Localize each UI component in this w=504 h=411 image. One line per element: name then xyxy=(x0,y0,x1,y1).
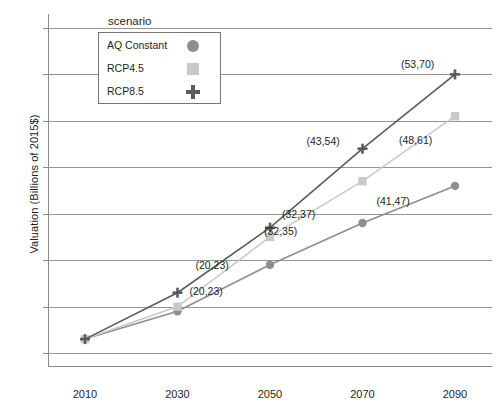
data-point-rcp4-5 xyxy=(451,112,459,120)
legend-item-label: RCP8.5 xyxy=(107,85,144,97)
point-annotation: (48,61) xyxy=(399,134,432,146)
x-tick-label: 2050 xyxy=(240,388,300,400)
legend-marker-square-icon xyxy=(185,61,201,77)
data-point-rcp8-5 xyxy=(173,288,183,298)
legend-box: scenario AQ ConstantRCP4.5RCP8.5 xyxy=(98,32,221,104)
legend-item-rcp8-5[interactable]: RCP8.5 xyxy=(99,80,222,104)
x-tick-label: 2090 xyxy=(425,388,485,400)
data-point-rcp4-5 xyxy=(173,302,181,310)
point-annotation: (20,23) xyxy=(196,259,229,271)
legend-item-aq-constant[interactable]: AQ Constant xyxy=(99,34,222,58)
data-point-aq-constant xyxy=(266,261,274,269)
legend-item-label: RCP4.5 xyxy=(107,62,144,74)
point-annotation: (32,37) xyxy=(282,208,315,220)
point-annotation: (41,47) xyxy=(377,195,410,207)
legend-title: scenario xyxy=(106,15,153,27)
y-axis-title: Valuation (Billions of 2015$) xyxy=(28,64,40,304)
data-point-aq-constant xyxy=(358,219,366,227)
x-tick-label: 2010 xyxy=(55,388,115,400)
x-tick-label: 2030 xyxy=(148,388,208,400)
legend-marker-plus-icon xyxy=(185,84,201,100)
legend-item-label: AQ Constant xyxy=(107,39,167,51)
legend-marker-circle-icon xyxy=(185,38,201,54)
point-annotation: (20,23) xyxy=(190,285,223,297)
data-point-aq-constant xyxy=(451,182,459,190)
point-annotation: (43,54) xyxy=(307,135,340,147)
point-annotation: (53,70) xyxy=(401,58,434,70)
x-tick-label: 2070 xyxy=(333,388,393,400)
line-chart: Valuation (Billions of 2015$) 1020304050… xyxy=(0,0,504,411)
plot-area: 1020304050607080 20102030205020702090 (2… xyxy=(48,14,492,367)
data-point-rcp4-5 xyxy=(358,177,366,185)
legend-item-rcp4-5[interactable]: RCP4.5 xyxy=(99,57,222,81)
point-annotation: (32,35) xyxy=(264,225,297,237)
